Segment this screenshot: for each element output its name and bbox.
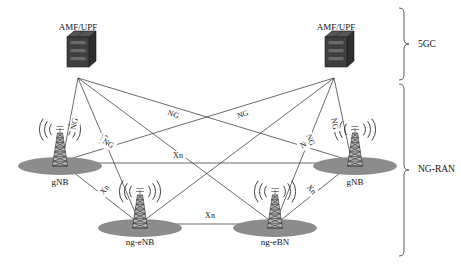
bracket-ng-ran: NG-RAN xyxy=(399,84,455,256)
interface-label-xn-gnb-gnb: Xn xyxy=(170,151,186,161)
node-label-amf-upf-left: AMF/UPF xyxy=(59,22,98,32)
interface-label-ng-7: NG xyxy=(164,108,182,123)
domain-brackets-layer: 5GCNG-RAN xyxy=(399,8,455,256)
diagram-canvas: NGNGNGNGNGNGNGNGXnXnXnXn AMF/UPFAMF/UPFg… xyxy=(0,0,461,270)
interface-label-ng-1: NG xyxy=(69,115,82,133)
node-label-amf-upf-right: AMF/UPF xyxy=(317,22,356,32)
bracket-label-5gc: 5GC xyxy=(418,39,436,49)
link-ng-4 xyxy=(78,78,352,161)
network-architecture-diagram: NGNGNGNGNGNGNGNGXnXnXnXn AMF/UPFAMF/UPFg… xyxy=(0,0,461,270)
link-ng-8 xyxy=(63,78,334,161)
node-label-ng-ebn-right: ng-eBN xyxy=(261,237,290,247)
interface-label-xn-gnb-ngenb: Xn xyxy=(96,181,114,200)
interface-label-ng-3: NG xyxy=(234,108,252,123)
link-ng-2 xyxy=(78,78,140,224)
svg-text:Xn: Xn xyxy=(205,211,215,220)
interface-label-xn-ngenb-ngebn: Xn xyxy=(202,211,218,221)
interface-label-ng-5: NG xyxy=(328,115,341,133)
bracket-5gc: 5GC xyxy=(399,8,436,80)
coverage-areas-layer xyxy=(18,157,397,237)
connection-lines-layer xyxy=(62,78,352,224)
core-node-icons-layer xyxy=(67,31,354,67)
node-label-gnb-left: gNB xyxy=(51,177,68,187)
svg-text:Xn: Xn xyxy=(173,151,183,160)
interface-labels-layer: NGNGNGNGNGNGNGNGXnXnXnXn xyxy=(69,108,341,221)
node-label-gnb-right: gNB xyxy=(346,177,363,187)
server-icon-amf-upf-right xyxy=(325,31,354,67)
interface-label-xn-gnbr-ngebn: Xn xyxy=(302,181,320,200)
bracket-label-ng-ran: NG-RAN xyxy=(418,164,455,174)
node-label-ng-enb-left: ng-eNB xyxy=(126,237,155,247)
server-icon-amf-upf-left xyxy=(67,31,96,67)
